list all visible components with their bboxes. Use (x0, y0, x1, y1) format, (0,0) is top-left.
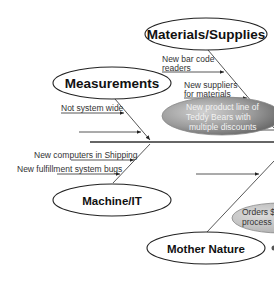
cause-new-computers: New computers in Shipping (34, 150, 138, 160)
cause-fulfillment-bugs: New fulfillment system bugs (17, 164, 122, 174)
partial-marker (272, 246, 275, 251)
highlight-cause-line2: Teddy Bears with (186, 112, 251, 122)
highlight-cause-line1: New product line of (186, 102, 259, 112)
nature-label: Mother Nature (167, 243, 245, 255)
highlight-cause-line3: multiple discounts (189, 122, 257, 132)
cause-not-system-wide: Not system wide (61, 103, 124, 113)
materials-label: Materials/Supplies (147, 27, 266, 42)
nature-cause-line1: Orders $ (242, 207, 274, 217)
machine-label: Machine/IT (82, 195, 141, 207)
cause-bar-code-line2: readers (162, 63, 191, 73)
cause-suppliers-line2: for materials (184, 89, 231, 99)
nature-cause-line2: process (242, 217, 272, 227)
fishbone-diagram: New product line of Teddy Bears with mul… (0, 0, 274, 285)
measurements-label: Measurements (65, 76, 160, 91)
